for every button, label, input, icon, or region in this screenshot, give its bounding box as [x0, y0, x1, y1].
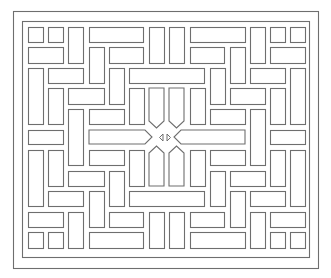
lattice-bar [150, 213, 165, 249]
lattice-artwork [0, 0, 331, 278]
pointed-bar-up-right [169, 146, 184, 186]
lattice-bar [110, 48, 144, 64]
lattice-bar [69, 213, 84, 249]
pointed-bar-down-left [149, 88, 164, 128]
lattice-bar [130, 89, 145, 125]
lattice-bar [231, 48, 246, 84]
lattice-bar [90, 151, 125, 166]
lattice-bar [191, 89, 206, 125]
lattice-bar [211, 110, 246, 125]
lattice-bar [69, 172, 105, 187]
lattice-bar [29, 69, 44, 125]
lattice-bar [271, 233, 286, 249]
lattice-bar [130, 192, 205, 207]
right-triangle-icon [167, 134, 171, 141]
inner-frame [23, 22, 310, 258]
lattice-bar [29, 213, 64, 228]
lattice-bar [49, 28, 64, 43]
lattice-bar [150, 28, 165, 64]
left-triangle-icon [160, 134, 164, 141]
lattice-bar [90, 192, 105, 228]
pointed-bar-down-right [169, 88, 184, 128]
lattice-bar [69, 110, 84, 166]
lattice-bar [170, 28, 185, 64]
lattice-bar [231, 192, 246, 228]
lattice-bar [191, 28, 246, 43]
lattice-bar [29, 131, 64, 145]
lattice-bar [211, 69, 226, 105]
lattice-bar [29, 151, 44, 207]
lattice-bar [110, 172, 125, 207]
lattice-bar [130, 69, 205, 84]
lattice-bar [29, 48, 64, 64]
lattice-svg [0, 0, 331, 278]
pointed-bar-left [174, 130, 245, 144]
pointed-bar-right [89, 130, 152, 144]
lattice-bar [130, 151, 145, 187]
lattice-bar [90, 233, 144, 249]
lattice-bar [90, 28, 144, 43]
lattice-bar [191, 48, 225, 64]
lattice-bar [49, 192, 84, 207]
lattice-bar [191, 151, 206, 187]
lattice-bar [251, 192, 286, 207]
lattice-bar [291, 233, 306, 249]
lattice-bar [110, 213, 144, 228]
lattice-bar [110, 69, 125, 105]
lattice-bar [29, 233, 44, 249]
lattice-bar [90, 48, 105, 84]
lattice-bar [191, 213, 225, 228]
lattice-bar [251, 110, 266, 166]
lattice-bar [49, 69, 84, 84]
lattice-bar [251, 213, 266, 249]
lattice-bar [271, 28, 286, 43]
lattice-bar [291, 151, 306, 207]
lattice-bar [271, 213, 306, 228]
pointed-bar-up-left [149, 146, 164, 186]
lattice-bar [49, 89, 64, 125]
lattice-bar [191, 233, 246, 249]
lattice-bar [29, 28, 44, 43]
lattice-bar [231, 89, 266, 105]
lattice-bar [231, 172, 266, 187]
lattice-bar [271, 48, 306, 64]
lattice-bar [251, 69, 286, 84]
lattice-bar [69, 28, 84, 64]
lattice-bar [271, 89, 286, 125]
lattice-bar [211, 151, 246, 166]
lattice-bar [170, 213, 185, 249]
lattice-bar [211, 172, 226, 207]
lattice-bar [291, 28, 306, 43]
lattice-bar [251, 28, 266, 64]
lattice-bar [49, 151, 64, 187]
lattice-bar [271, 151, 286, 187]
lattice-bar [69, 89, 105, 105]
lattice-bar [90, 110, 125, 125]
lattice-bar [49, 233, 64, 249]
lattice-bar [291, 69, 306, 125]
lattice-bar [271, 131, 306, 145]
